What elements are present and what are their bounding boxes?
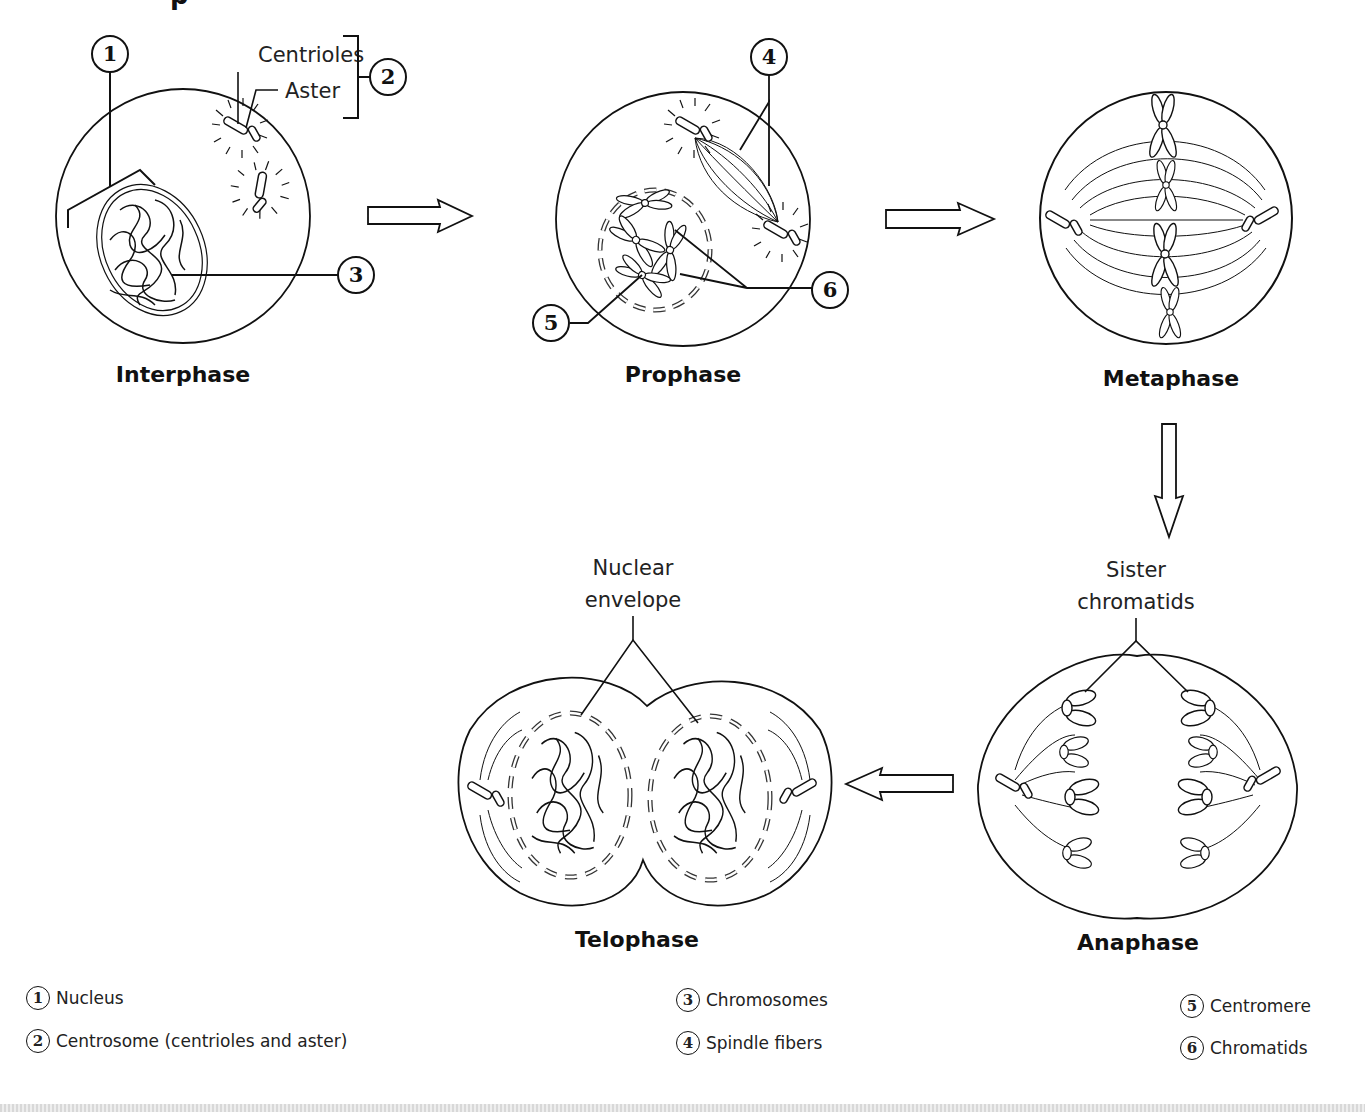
interphase-cell: 1 Centrioles Aster 2 3 Interphase xyxy=(56,36,406,387)
marker-3-label: 3 xyxy=(349,262,364,287)
bottom-band xyxy=(0,1104,1365,1112)
arrow-right-icon xyxy=(368,200,472,232)
sister-chromatids-label-line1: Sister xyxy=(1106,558,1166,582)
legend-badge: 3 xyxy=(676,988,700,1012)
aster-label: Aster xyxy=(285,79,340,103)
marker-5-label: 5 xyxy=(544,310,559,335)
legend-label: Spindle fibers xyxy=(706,1033,822,1053)
nuclear-envelope-label-line2: envelope xyxy=(585,588,682,612)
metaphase-cell: Metaphase xyxy=(1040,92,1292,391)
legend-item: 1 Nucleus xyxy=(26,986,124,1010)
stage-label-prophase: Prophase xyxy=(625,362,741,387)
legend-badge: 5 xyxy=(1180,994,1204,1018)
centrioles-label: Centrioles xyxy=(258,43,364,67)
arrow-left-icon xyxy=(846,768,953,800)
stage-label-anaphase: Anaphase xyxy=(1077,930,1199,955)
stage-label-metaphase: Metaphase xyxy=(1103,366,1239,391)
legend-item: 3 Chromosomes xyxy=(676,988,828,1012)
anaphase-cell: Sister chromatids Anaphase xyxy=(978,558,1297,955)
legend-item: 4 Spindle fibers xyxy=(676,1031,822,1055)
marker-1-label: 1 xyxy=(103,41,118,66)
legend-badge: 4 xyxy=(676,1031,700,1055)
legend-item: 6 Chromatids xyxy=(1180,1036,1308,1060)
legend-badge: 1 xyxy=(26,986,50,1010)
marker-2-label: 2 xyxy=(381,64,396,89)
nuclear-envelope-label-line1: Nuclear xyxy=(593,556,674,580)
mitosis-diagram: 1 Centrioles Aster 2 3 Interphase xyxy=(0,0,1365,1112)
stage-label-interphase: Interphase xyxy=(116,362,250,387)
marker-6-label: 6 xyxy=(823,277,838,302)
legend-label: Centrosome (centrioles and aster) xyxy=(56,1031,347,1051)
legend-label: Nucleus xyxy=(56,988,124,1008)
legend-label: Chromatids xyxy=(1210,1038,1308,1058)
stage-label-telophase: Telophase xyxy=(575,927,699,952)
arrow-down-icon xyxy=(1155,424,1183,537)
arrow-right-icon xyxy=(886,203,994,235)
legend-badge: 6 xyxy=(1180,1036,1204,1060)
legend-label: Centromere xyxy=(1210,996,1311,1016)
marker-4-label: 4 xyxy=(762,44,777,69)
legend-label: Chromosomes xyxy=(706,990,828,1010)
legend-item: 2 Centrosome (centrioles and aster) xyxy=(26,1029,347,1053)
sister-chromatids-label-line2: chromatids xyxy=(1077,590,1195,614)
legend-badge: 2 xyxy=(26,1029,50,1053)
prophase-cell: 4 6 5 Prophase xyxy=(533,39,848,387)
telophase-cell: Nuclear envelope Telophase xyxy=(458,556,831,952)
legend-item: 5 Centromere xyxy=(1180,994,1311,1018)
